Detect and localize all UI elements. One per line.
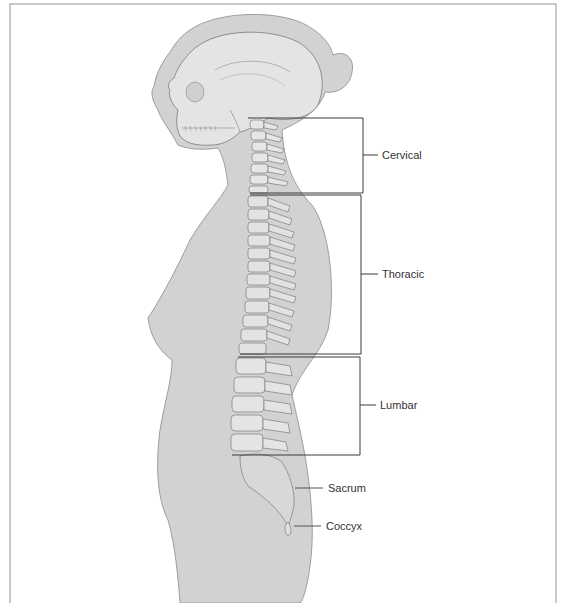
- label-coccyx: Coccyx: [326, 521, 362, 532]
- label-thoracic: Thoracic: [382, 269, 424, 280]
- label-sacrum: Sacrum: [328, 483, 366, 494]
- label-lumbar: Lumbar: [380, 400, 417, 411]
- label-cervical: Cervical: [382, 150, 422, 161]
- eye-socket: [186, 82, 204, 102]
- spine-illustration: [0, 0, 565, 603]
- diagram-canvas: Cervical Thoracic Lumbar Sacrum Coccyx: [0, 0, 565, 603]
